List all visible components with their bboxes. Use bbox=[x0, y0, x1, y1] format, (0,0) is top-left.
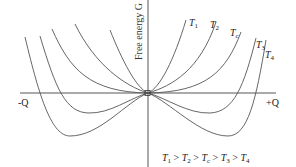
curve-label-t2: T2 bbox=[210, 20, 219, 32]
y-axis-label: Free energy G bbox=[133, 3, 144, 60]
x-axis-left-label: -Q bbox=[18, 98, 29, 108]
temperature-order-legend: T1 > T2 > Tc > T3 > T4 bbox=[162, 152, 249, 165]
curve-label-t4: T4 bbox=[265, 50, 274, 62]
curve-label-t3: T3 bbox=[256, 40, 265, 52]
curve-label-t1: T1 bbox=[189, 18, 198, 30]
curve-label-tc: Tc bbox=[230, 28, 239, 40]
free-energy-diagram: Free energy G -Q +Q T1 T2 Tc T3 T4 T1 > … bbox=[0, 0, 296, 167]
plot-canvas bbox=[0, 0, 296, 167]
curve-t4 bbox=[25, 37, 266, 136]
curve-tc bbox=[52, 29, 241, 93]
x-axis-right-label: +Q bbox=[266, 98, 279, 108]
